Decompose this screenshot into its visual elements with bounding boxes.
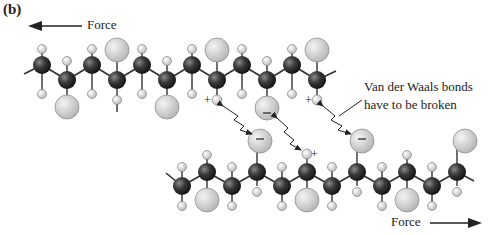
- force-label-top: Force: [87, 17, 117, 33]
- force-arrow-right: [430, 218, 482, 228]
- svg-text:+: +: [204, 93, 211, 107]
- svg-text:+: +: [311, 147, 318, 161]
- panel-label: (b): [3, 1, 21, 18]
- svg-text:+: +: [305, 93, 312, 107]
- force-label-bottom: Force: [391, 214, 421, 230]
- charged-hydrogen: [212, 95, 222, 105]
- van-der-waals-annotation: Van der Waals bonds have to be broken: [364, 78, 473, 114]
- annotation-line-1: Van der Waals bonds: [364, 78, 473, 96]
- top-polymer-chain: [24, 38, 336, 120]
- polymer-chains-diagram: + + +: [0, 0, 489, 235]
- force-arrow-left: [28, 21, 82, 31]
- van-der-waals-bond-arrows: [223, 100, 362, 150]
- bottom-polymer-chain: [166, 129, 477, 212]
- annotation-line-2: have to be broken: [364, 96, 473, 114]
